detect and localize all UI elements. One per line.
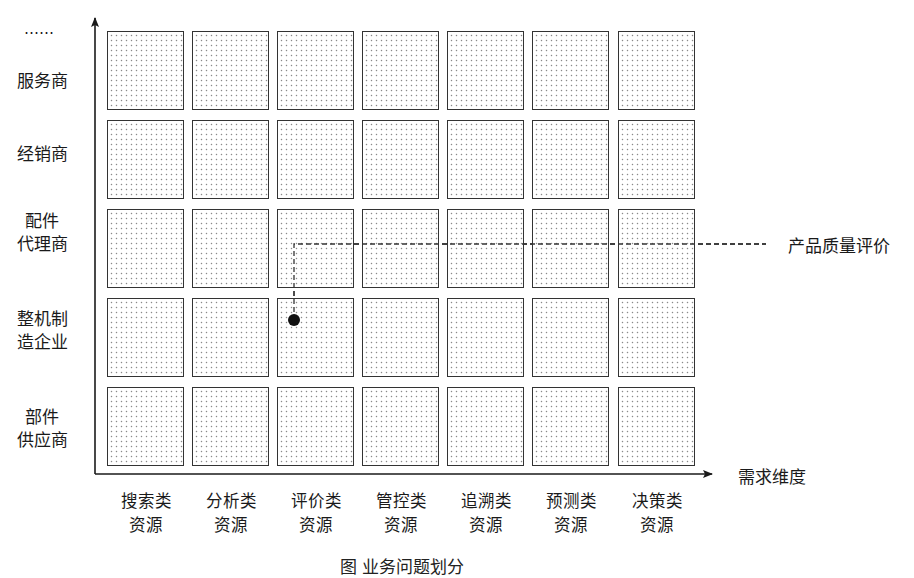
grid-cell (192, 298, 269, 377)
figure-caption: 图 业务问题划分 (340, 553, 464, 578)
grid-cell (618, 298, 695, 377)
grid-cell (362, 387, 439, 466)
grid-cell (447, 298, 524, 377)
row-label-machine-manufacturer: 整机制 造企业 (0, 308, 84, 354)
grid-cell (447, 209, 524, 288)
col-label-analysis: 分析类 资源 (191, 490, 271, 538)
grid-cell (618, 31, 695, 110)
grid-cell (362, 31, 439, 110)
grid-cell (107, 31, 184, 110)
grid-cell (277, 120, 354, 199)
col-label-decision: 决策类 资源 (617, 490, 697, 538)
col-label-search: 搜索类 资源 (106, 490, 186, 538)
col-label-control: 管控类 资源 (361, 490, 441, 538)
x-axis-title: 需求维度 (738, 463, 806, 488)
grid-cell (107, 209, 184, 288)
grid-cell (192, 120, 269, 199)
grid-cell (192, 387, 269, 466)
grid-cell (277, 298, 354, 377)
row-label-dealer: 经销商 (0, 143, 84, 166)
grid-cell (532, 31, 609, 110)
grid-cell (107, 120, 184, 199)
grid-cell (532, 298, 609, 377)
grid-cell (277, 387, 354, 466)
grid-cell (618, 120, 695, 199)
grid-cell (362, 120, 439, 199)
grid-cell (107, 387, 184, 466)
col-label-prediction: 预测类 资源 (531, 490, 611, 538)
y-axis-ellipsis: …… (24, 20, 54, 38)
grid-cell (618, 387, 695, 466)
grid-cell (192, 209, 269, 288)
callout-label-product-quality-evaluation: 产品质量评价 (788, 232, 890, 257)
grid-cell (107, 298, 184, 377)
grid-cell (618, 209, 695, 288)
row-label-component-supplier: 部件 供应商 (0, 406, 84, 452)
grid-cell (447, 387, 524, 466)
grid-cell (277, 31, 354, 110)
grid-cell (362, 298, 439, 377)
grid-cell (532, 120, 609, 199)
grid-cell (447, 31, 524, 110)
grid-cell (362, 209, 439, 288)
grid-cell (532, 209, 609, 288)
grid-cell (192, 31, 269, 110)
row-label-service-provider: 服务商 (0, 70, 84, 93)
grid-cell (532, 387, 609, 466)
grid-cell (447, 120, 524, 199)
col-label-traceability: 追溯类 资源 (446, 490, 526, 538)
row-label-parts-agent: 配件 代理商 (0, 210, 84, 256)
grid-cell (277, 209, 354, 288)
col-label-evaluation: 评价类 资源 (276, 490, 356, 538)
